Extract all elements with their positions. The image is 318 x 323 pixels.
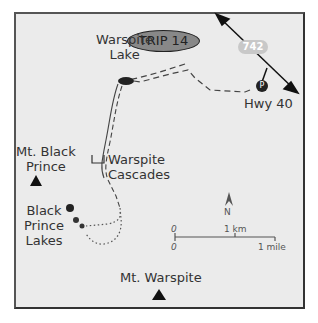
compass-north-label: N (224, 205, 231, 220)
road-742-badge: 742 (238, 40, 268, 54)
mt-black-prince-label: Mt. Black Prince (16, 144, 76, 174)
label-line: Black (24, 203, 64, 218)
label-line: Warspite (108, 152, 170, 167)
label-line: Lakes (24, 233, 64, 248)
mt-warspite-label: Mt. Warspite (120, 270, 202, 285)
black-prince-lakes-label: Black Prince Lakes (24, 203, 64, 248)
scale-zero-top: 0 (171, 222, 177, 237)
parking-label: P (256, 80, 268, 92)
label-line: Prince (16, 159, 76, 174)
label-line: Cascades (108, 167, 170, 182)
mountain-icon (152, 289, 166, 300)
label-line: Lake (96, 47, 153, 62)
scale-zero-bottom: 0 (171, 240, 177, 255)
north-arrow-icon (225, 192, 233, 206)
warspite-lake-shape (118, 77, 134, 85)
mountain-icon (30, 175, 42, 186)
hwy-40-label: Hwy 40 (244, 96, 293, 111)
warspite-cascades-label: Warspite Cascades (108, 152, 170, 182)
label-line: Warspite (96, 32, 153, 47)
label-line: Mt. Black (16, 144, 76, 159)
label-line: Prince (24, 218, 64, 233)
warspite-lake-label: Warspite Lake (96, 32, 153, 62)
scale-mile-label: 1 mile (258, 240, 286, 255)
scale-km-label: 1 km (224, 222, 247, 237)
